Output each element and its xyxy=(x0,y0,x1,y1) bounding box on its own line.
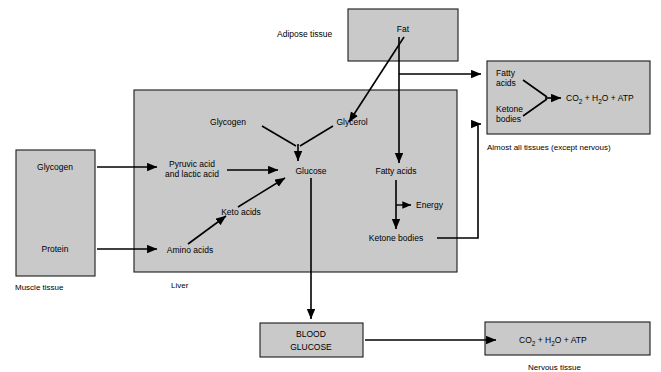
fat-label: Fat xyxy=(397,24,410,34)
liver-ketone-bodies-label: Ketone bodies xyxy=(369,233,423,243)
nervous-atp: ATP xyxy=(571,335,587,345)
all-tissues-caption: Almost all tissues (except nervous) xyxy=(487,143,611,152)
tissue-fatty-acids-label-line2: acids xyxy=(496,78,516,88)
metabolic-pathway-diagram: Adipose tissue Fat Glycogen Protein Musc… xyxy=(0,0,661,372)
tissue-ketone-label-line1: Ketone xyxy=(496,104,523,114)
blood-glucose-line2: GLUCOSE xyxy=(290,342,332,352)
all-tissues-co2: CO xyxy=(566,93,579,103)
glycerol-label: Glycerol xyxy=(336,117,367,127)
nervous-co2: CO xyxy=(519,335,532,345)
muscle-glycogen-label: Glycogen xyxy=(37,162,73,172)
nervous-tissue-caption: Nervous tissue xyxy=(528,363,581,372)
muscle-tissue-caption: Muscle tissue xyxy=(15,283,64,292)
tissue-ketone-label-line2: bodies xyxy=(496,114,521,124)
pyruvic-acid-label-line1: Pyruvic acid xyxy=(169,159,215,169)
adipose-tissue-caption: Adipose tissue xyxy=(277,29,333,39)
adipose-tissue-box xyxy=(348,9,458,61)
pyruvic-acid-label-line2: and lactic acid xyxy=(165,169,219,179)
keto-acids-label: Keto acids xyxy=(221,207,261,217)
muscle-protein-label: Protein xyxy=(42,244,69,254)
liver-glycogen-label: Glycogen xyxy=(210,117,246,127)
blood-glucose-line1: BLOOD xyxy=(296,329,326,339)
amino-acids-label: Amino acids xyxy=(167,245,213,255)
all-tissues-atp: ATP xyxy=(618,93,634,103)
diagram-canvas: Adipose tissue Fat Glycogen Protein Musc… xyxy=(0,0,661,372)
liver-caption: Liver xyxy=(171,281,189,290)
liver-fatty-acids-label: Fatty acids xyxy=(375,166,416,176)
energy-label: Energy xyxy=(416,200,444,210)
liver-glucose-label: Glucose xyxy=(295,166,326,176)
tissue-fatty-acids-label-line1: Fatty xyxy=(496,68,516,78)
